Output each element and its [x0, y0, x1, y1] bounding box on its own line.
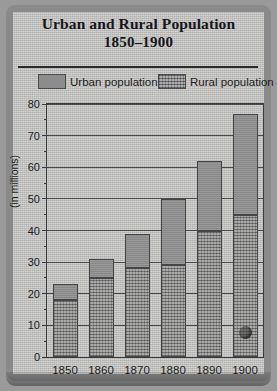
- y-axis-label: 80: [28, 98, 40, 110]
- gridline: [47, 167, 263, 168]
- scan-smudge-artifact: [239, 326, 252, 339]
- bar-segment-rural: [161, 265, 186, 357]
- gridline: [47, 230, 263, 231]
- bar-1850: [53, 104, 78, 357]
- bar-segment-urban: [233, 114, 258, 215]
- y-axis-label: 20: [28, 288, 40, 300]
- bar-segment-urban: [53, 284, 78, 300]
- gridline: [47, 262, 263, 263]
- bar-segment-urban: [125, 234, 150, 269]
- y-axis-tick: [42, 104, 47, 105]
- bar-segment-rural: [53, 300, 78, 357]
- gridline: [47, 104, 263, 105]
- gridline: [47, 293, 263, 294]
- photocopy-frame: Urban and Rural Population 1850–1900 Urb…: [0, 0, 277, 391]
- y-axis-label: 0: [34, 351, 40, 363]
- y-axis-label: 30: [28, 256, 40, 268]
- y-axis-minor-tick: [44, 309, 47, 310]
- bar-1860: [89, 104, 114, 357]
- y-axis-label: 50: [28, 193, 40, 205]
- bar-1890: [197, 104, 222, 357]
- bar-segment-urban: [89, 259, 114, 278]
- y-axis-tick: [42, 198, 47, 199]
- y-axis-minor-tick: [44, 183, 47, 184]
- bar-1880: [161, 104, 186, 357]
- y-axis-minor-tick: [44, 277, 47, 278]
- plot-wrapper: 0102030405060708018501860187018801890190…: [0, 0, 277, 391]
- bar-1870: [125, 104, 150, 357]
- y-axis-label: 10: [28, 319, 40, 331]
- y-axis-tick: [42, 262, 47, 263]
- y-axis-label: 60: [28, 161, 40, 173]
- y-axis-minor-tick: [44, 214, 47, 215]
- bar-segment-rural: [89, 278, 114, 357]
- y-axis-label: 70: [28, 130, 40, 142]
- y-axis-minor-tick: [44, 246, 47, 247]
- bar-segment-urban: [197, 161, 222, 231]
- y-axis-tick: [42, 325, 47, 326]
- y-axis-minor-tick: [44, 119, 47, 120]
- y-axis-tick: [42, 230, 47, 231]
- y-axis-tick: [42, 293, 47, 294]
- gridline: [47, 135, 263, 136]
- y-axis-tick: [42, 167, 47, 168]
- gridline: [47, 198, 263, 199]
- y-axis-minor-tick: [44, 341, 47, 342]
- gridline: [47, 325, 263, 326]
- bar-1900: [233, 104, 258, 357]
- bar-segment-rural: [197, 231, 222, 358]
- bar-segment-urban: [161, 199, 186, 265]
- plot-area: 0102030405060708018501860187018801890190…: [46, 103, 264, 358]
- bar-segment-rural: [125, 268, 150, 357]
- y-axis-tick: [42, 357, 47, 358]
- y-axis-label: 40: [28, 225, 40, 237]
- x-axis-label-1900: 1900: [223, 364, 267, 376]
- y-axis-minor-tick: [44, 151, 47, 152]
- y-axis-tick: [42, 135, 47, 136]
